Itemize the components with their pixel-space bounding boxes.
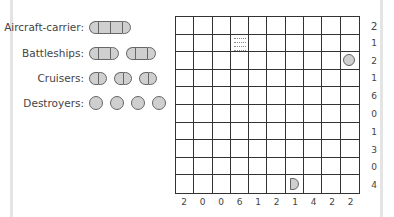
grid-cell[interactable] — [231, 52, 249, 70]
grid-cell[interactable] — [194, 123, 212, 141]
grid-cell[interactable] — [249, 52, 267, 70]
grid-cell[interactable] — [213, 70, 231, 88]
grid-cell[interactable] — [322, 87, 340, 105]
grid-cell[interactable] — [286, 175, 304, 193]
grid-cell[interactable] — [341, 70, 359, 88]
grid-cell[interactable] — [249, 158, 267, 176]
grid-cell[interactable] — [304, 70, 322, 88]
grid-cell[interactable] — [341, 35, 359, 53]
grid-cell[interactable] — [286, 35, 304, 53]
grid-cell[interactable] — [231, 17, 249, 35]
grid-cell[interactable] — [341, 158, 359, 176]
grid-cell[interactable] — [341, 175, 359, 193]
grid-cell[interactable] — [267, 87, 285, 105]
grid-cell[interactable] — [249, 87, 267, 105]
grid-cell[interactable] — [249, 123, 267, 141]
right-scrollbar[interactable] — [380, 0, 383, 217]
grid-cell[interactable] — [286, 158, 304, 176]
grid-cell[interactable] — [322, 17, 340, 35]
grid-cell[interactable] — [286, 17, 304, 35]
grid-cell[interactable] — [286, 87, 304, 105]
grid-cell[interactable] — [194, 105, 212, 123]
grid-cell[interactable] — [322, 158, 340, 176]
grid-cell[interactable] — [176, 87, 194, 105]
grid-cell[interactable] — [322, 52, 340, 70]
grid-cell[interactable] — [176, 52, 194, 70]
grid-cell[interactable] — [267, 70, 285, 88]
grid-cell[interactable] — [231, 87, 249, 105]
grid-cell[interactable] — [176, 105, 194, 123]
grid-cell[interactable] — [231, 70, 249, 88]
grid-cell[interactable] — [286, 105, 304, 123]
grid-cell[interactable] — [286, 70, 304, 88]
grid-cell[interactable] — [267, 158, 285, 176]
grid-cell[interactable] — [213, 140, 231, 158]
grid-cell[interactable] — [249, 105, 267, 123]
grid-cell[interactable] — [322, 140, 340, 158]
grid-cell[interactable] — [194, 17, 212, 35]
grid-cell[interactable] — [176, 175, 194, 193]
grid-cell[interactable] — [176, 35, 194, 53]
grid-cell[interactable] — [176, 140, 194, 158]
grid-cell[interactable] — [341, 52, 359, 70]
grid-cell[interactable] — [231, 175, 249, 193]
grid-cell[interactable] — [176, 70, 194, 88]
grid-cell[interactable] — [194, 175, 212, 193]
grid-cell[interactable] — [304, 17, 322, 35]
grid-cell[interactable] — [194, 70, 212, 88]
grid-cell[interactable] — [231, 140, 249, 158]
grid-cell[interactable] — [213, 123, 231, 141]
grid-cell[interactable] — [304, 140, 322, 158]
grid-cell[interactable] — [194, 52, 212, 70]
grid-cell[interactable] — [213, 17, 231, 35]
grid-cell[interactable] — [322, 175, 340, 193]
grid-cell[interactable] — [194, 140, 212, 158]
grid-cell[interactable] — [213, 52, 231, 70]
grid-cell[interactable] — [341, 105, 359, 123]
grid-cell[interactable] — [341, 140, 359, 158]
grid-cell[interactable] — [267, 140, 285, 158]
grid-cell[interactable] — [286, 52, 304, 70]
grid-cell[interactable] — [213, 35, 231, 53]
grid-cell[interactable] — [213, 175, 231, 193]
grid-cell[interactable] — [267, 105, 285, 123]
grid-cell[interactable] — [304, 175, 322, 193]
grid-cell[interactable] — [304, 123, 322, 141]
grid-cell[interactable] — [322, 123, 340, 141]
grid-cell[interactable] — [304, 158, 322, 176]
grid-cell[interactable] — [249, 35, 267, 53]
grid-cell[interactable] — [213, 105, 231, 123]
grid-cell[interactable] — [322, 105, 340, 123]
grid-cell[interactable] — [231, 158, 249, 176]
grid-cell[interactable] — [176, 158, 194, 176]
grid-cell[interactable] — [249, 140, 267, 158]
grid-cell[interactable] — [341, 123, 359, 141]
grid-cell[interactable] — [322, 70, 340, 88]
grid-cell[interactable] — [304, 52, 322, 70]
grid-cell[interactable] — [194, 35, 212, 53]
grid-cell[interactable] — [249, 175, 267, 193]
grid-cell[interactable] — [267, 123, 285, 141]
grid-cell[interactable] — [267, 35, 285, 53]
grid-cell[interactable] — [341, 87, 359, 105]
grid-cell[interactable] — [286, 123, 304, 141]
grid-cell[interactable] — [231, 105, 249, 123]
grid-cell[interactable] — [304, 35, 322, 53]
grid-cell[interactable] — [322, 35, 340, 53]
grid-cell[interactable] — [304, 87, 322, 105]
grid-cell[interactable] — [286, 140, 304, 158]
grid-cell[interactable] — [249, 17, 267, 35]
grid-cell[interactable] — [194, 87, 212, 105]
grid-cell[interactable] — [231, 35, 249, 53]
grid-cell[interactable] — [267, 175, 285, 193]
grid-cell[interactable] — [341, 17, 359, 35]
grid-cell[interactable] — [194, 158, 212, 176]
grid-cell[interactable] — [213, 87, 231, 105]
grid-cell[interactable] — [267, 52, 285, 70]
grid-cell[interactable] — [176, 123, 194, 141]
grid-cell[interactable] — [304, 105, 322, 123]
grid-cell[interactable] — [267, 17, 285, 35]
grid-cell[interactable] — [213, 158, 231, 176]
grid-cell[interactable] — [231, 123, 249, 141]
grid-cell[interactable] — [176, 17, 194, 35]
